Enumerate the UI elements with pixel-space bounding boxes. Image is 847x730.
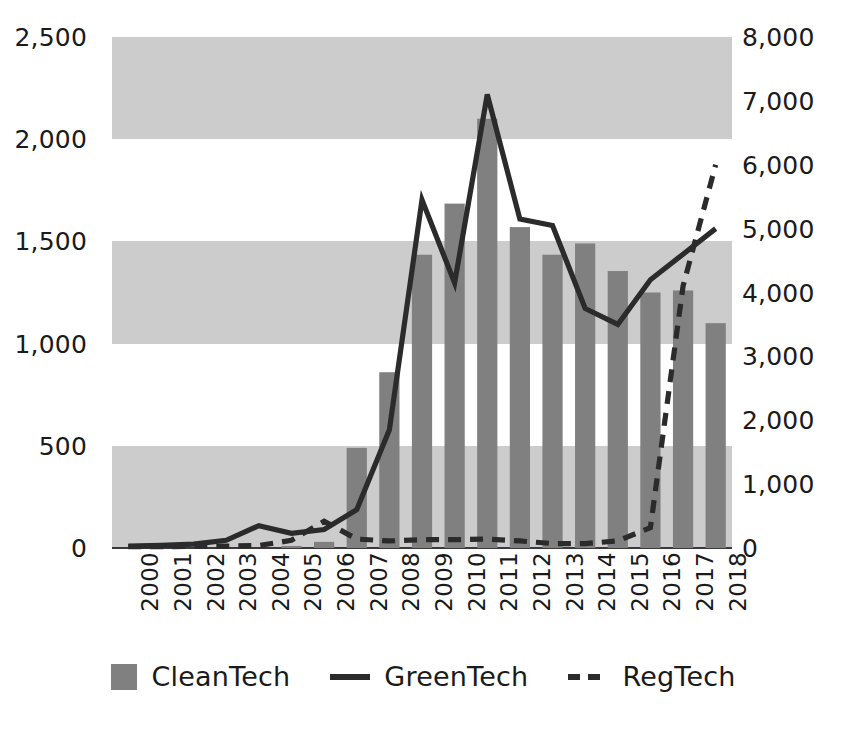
legend-label-cleantech: CleanTech <box>151 663 290 690</box>
bar-2009 <box>412 255 432 548</box>
legend-item-greentech[interactable]: GreenTech <box>330 663 528 690</box>
left-tick-1500: 1,500 <box>14 229 87 254</box>
x-tick-2004: 2004 <box>270 552 293 612</box>
bar-2013 <box>542 255 562 548</box>
x-tick-2010: 2010 <box>466 552 489 612</box>
solid-line-swatch-icon <box>330 674 370 680</box>
x-tick-2011: 2011 <box>498 552 521 612</box>
x-tick-2000: 2000 <box>139 552 162 612</box>
bar-2018 <box>706 323 726 548</box>
right-tick-2000: 2,000 <box>742 408 815 433</box>
left-tick-1000: 1,000 <box>14 332 87 357</box>
bar-swatch-icon <box>111 664 137 690</box>
x-tick-2001: 2001 <box>172 552 195 612</box>
chart-container: 05001,0001,5002,0002,500 01,0002,0003,00… <box>0 0 847 730</box>
legend-item-cleantech[interactable]: CleanTech <box>111 663 290 690</box>
x-tick-2008: 2008 <box>400 552 423 612</box>
x-tick-2017: 2017 <box>694 552 717 612</box>
cleantech-bars <box>281 119 725 548</box>
x-tick-2002: 2002 <box>205 552 228 612</box>
x-tick-2007: 2007 <box>368 552 391 612</box>
right-axis-tick-labels: 01,0002,0003,0004,0005,0006,0007,0008,00… <box>742 0 847 730</box>
left-axis-tick-labels: 05001,0001,5002,0002,500 <box>0 0 105 730</box>
legend-label-regtech: RegTech <box>622 663 735 690</box>
x-tick-2015: 2015 <box>629 552 652 612</box>
left-tick-0: 0 <box>71 536 87 561</box>
legend-label-greentech: GreenTech <box>384 663 528 690</box>
x-tick-2016: 2016 <box>661 552 684 612</box>
left-tick-2000: 2,000 <box>14 127 87 152</box>
bar-2008 <box>379 372 399 548</box>
chart-legend: CleanTech GreenTech RegTech <box>0 663 847 690</box>
x-tick-2005: 2005 <box>302 552 325 612</box>
bar-2012 <box>510 227 530 548</box>
left-tick-500: 500 <box>39 434 87 459</box>
bar-2006 <box>314 542 334 548</box>
right-tick-8000: 8,000 <box>742 25 815 50</box>
x-axis-tick-labels: 2000200120022003200420052006200720082009… <box>112 552 732 652</box>
x-tick-2013: 2013 <box>564 552 587 612</box>
x-tick-2012: 2012 <box>531 552 554 612</box>
right-tick-6000: 6,000 <box>742 153 815 178</box>
dashed-line-swatch-icon <box>568 674 608 680</box>
x-tick-2003: 2003 <box>237 552 260 612</box>
left-tick-2500: 2,500 <box>14 25 87 50</box>
series-layer <box>112 37 732 548</box>
x-tick-2009: 2009 <box>433 552 456 612</box>
x-tick-2018: 2018 <box>727 552 750 612</box>
right-tick-5000: 5,000 <box>742 217 815 242</box>
bar-2011 <box>477 119 497 548</box>
x-tick-2006: 2006 <box>335 552 358 612</box>
plot-area <box>112 37 732 548</box>
bar-2005 <box>281 546 301 548</box>
right-tick-4000: 4,000 <box>742 281 815 306</box>
right-tick-3000: 3,000 <box>742 344 815 369</box>
right-tick-1000: 1,000 <box>742 472 815 497</box>
x-tick-2014: 2014 <box>596 552 619 612</box>
right-tick-7000: 7,000 <box>742 89 815 114</box>
legend-item-regtech[interactable]: RegTech <box>568 663 735 690</box>
